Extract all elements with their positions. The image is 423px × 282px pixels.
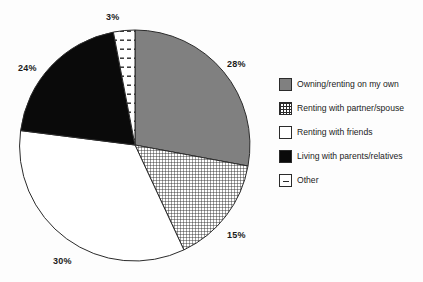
- legend-swatch-crosshatch-grid-icon: [279, 102, 292, 115]
- pie-slice-owning-renting-on-my-own[interactable]: [135, 30, 250, 166]
- legend-label-living-with-parents-relatives: Living with parents/relatives: [297, 152, 403, 161]
- legend-item-owning-renting-on-my-own[interactable]: Owning/renting on my own: [279, 72, 421, 96]
- chart-legend: Owning/renting on my own Renting with pa…: [279, 72, 421, 192]
- pie-label-24-percent: 24%: [18, 63, 37, 73]
- pie-label-3-percent: 3%: [106, 12, 119, 22]
- legend-swatch-solid-gray-icon: [279, 78, 292, 91]
- legend-label-renting-with-partner-spouse: Renting with partner/spouse: [297, 104, 404, 113]
- pie-chart-figure: 28% 15% 30% 24% 3% Owning/renting on my …: [0, 0, 423, 282]
- legend-label-other: Other: [297, 176, 319, 185]
- legend-swatch-solid-white-icon: [279, 126, 292, 139]
- pie-label-30-percent: 30%: [53, 256, 72, 266]
- legend-item-renting-with-partner-spouse[interactable]: Renting with partner/spouse: [279, 96, 421, 120]
- legend-swatch-dashed-dots-icon: [279, 174, 292, 187]
- legend-swatch-solid-black-icon: [279, 150, 292, 163]
- pie-label-15-percent: 15%: [227, 230, 246, 240]
- legend-item-other[interactable]: Other: [279, 168, 421, 192]
- legend-label-renting-with-friends: Renting with friends: [297, 128, 372, 137]
- legend-item-renting-with-friends[interactable]: Renting with friends: [279, 120, 421, 144]
- legend-item-living-with-parents-relatives[interactable]: Living with parents/relatives: [279, 144, 421, 168]
- legend-label-owning-renting-on-my-own: Owning/renting on my own: [297, 80, 399, 89]
- pie-label-28-percent: 28%: [227, 59, 246, 69]
